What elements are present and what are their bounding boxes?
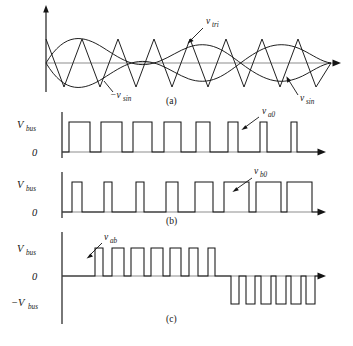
annotation-v-a0: v a0: [241, 106, 275, 130]
panel-vb0-ylabel-vbus-main: V: [17, 179, 25, 190]
annotation-v-sin: v sin: [286, 76, 314, 106]
annotation-v-a0-sub: a0: [268, 111, 276, 119]
annotation-v-a0-label: v: [262, 106, 267, 116]
annotation-v-ab-label: v: [104, 232, 109, 242]
panel-va0-ylabel-vbus-sub: bus: [26, 125, 36, 133]
annotation-v-ab-arrowhead: [87, 254, 93, 259]
annotation-v-b0: v b0: [232, 166, 267, 192]
panel-vb0-ylabel-vbus-sub: bus: [26, 185, 36, 193]
annotation-v-ab-sub: ab: [110, 237, 118, 245]
panel-va0-ylabel-zero: 0: [32, 147, 38, 158]
series-v-a0: [62, 122, 318, 152]
panel-vab-ylabel-neg-vbus-sub: bus: [28, 303, 38, 311]
annotation-neg-v-sin-label: −v: [110, 90, 121, 100]
panel-vb0-ylabel-vbus: V bus: [17, 179, 36, 193]
panel-vab-ylabel-neg-vbus: −V bus: [11, 297, 38, 311]
annotation-v-sin-arrowhead: [286, 76, 291, 83]
panel-a-y-axis-arrowhead: [43, 5, 49, 13]
annotation-v-sin-label: v: [300, 93, 305, 103]
panel-c-caption: (c): [166, 314, 177, 325]
figure-root: v tri −v sin v sin (a): [0, 0, 353, 346]
annotation-neg-v-sin-sub: sin: [123, 95, 132, 103]
annotation-v-tri-leader: [190, 28, 203, 41]
annotation-v-tri: v tri: [188, 16, 219, 44]
annotation-v-b0-sub: b0: [260, 171, 268, 179]
panel-vb0: V bus 0 v b0 (b): [17, 166, 326, 227]
annotation-v-ab: v ab: [87, 232, 118, 258]
annotation-v-tri-label: v: [206, 16, 211, 26]
panel-a-caption: (a): [166, 96, 177, 107]
panel-vab-ylabel-zero: 0: [32, 271, 38, 282]
panel-vb0-ylabel-zero: 0: [32, 207, 38, 218]
panel-vab-ylabel-neg-vbus-main: −V: [11, 297, 26, 308]
panel-vab-ylabel-vbus-main: V: [17, 243, 25, 254]
panel-va0-ylabel-vbus-main: V: [17, 119, 25, 130]
annotation-v-b0-label: v: [254, 166, 259, 176]
annotation-v-tri-sub: tri: [212, 21, 219, 29]
panel-vab-ylabel-vbus-sub: bus: [26, 249, 36, 257]
panel-vab-x-axis-arrowhead: [318, 273, 327, 280]
panel-vab-ylabel-vbus: V bus: [17, 243, 36, 257]
panel-b-caption: (b): [166, 216, 177, 227]
pwm-waveform-figure: v tri −v sin v sin (a): [0, 0, 353, 346]
annotation-neg-v-sin-leader: [104, 81, 113, 92]
annotation-v-sin-sub: sin: [306, 98, 315, 106]
series-v-b0: [62, 182, 318, 212]
annotation-v-tri-arrowhead: [188, 38, 194, 43]
panel-va0-x-axis-arrowhead: [318, 149, 327, 156]
annotation-neg-v-sin: −v sin: [104, 81, 132, 103]
panel-a-x-axis-arrowhead: [333, 60, 342, 67]
panel-vb0-x-axis-arrowhead: [318, 209, 327, 216]
panel-va0: V bus 0 v a0: [17, 106, 326, 158]
panel-vab: V bus 0 −V bus v ab (c): [11, 232, 326, 325]
panel-va0-ylabel-vbus: V bus: [17, 119, 36, 133]
panel-a: v tri −v sin v sin (a): [43, 5, 341, 107]
